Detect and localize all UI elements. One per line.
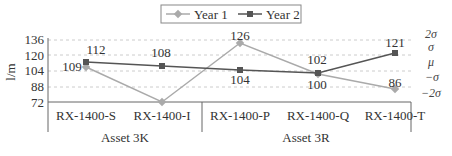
svg-text:112: 112 — [86, 42, 105, 57]
legend-year1: Year 1 — [194, 7, 228, 22]
svg-text:σ: σ — [428, 40, 435, 54]
year2-legend-marker-icon — [247, 11, 253, 17]
category-labels: RX-1400-S RX-1400-I RX-1400-P RX-1400-Q … — [56, 108, 425, 123]
svg-text:126: 126 — [230, 28, 250, 43]
svg-text:RX-1400-S: RX-1400-S — [56, 108, 116, 123]
svg-text:RX-1400-Q: RX-1400-Q — [287, 108, 350, 123]
svg-text:72: 72 — [31, 95, 44, 110]
svg-text:104: 104 — [230, 72, 250, 87]
svg-text:120: 120 — [25, 48, 45, 63]
svg-text:100: 100 — [307, 77, 327, 92]
legend: Year 1 Year 2 — [161, 5, 301, 23]
group-labels: Asset 3K Asset 3R — [101, 130, 330, 145]
sigma-labels: 2σ σ μ −σ −2σ — [421, 27, 442, 100]
svg-text:136: 136 — [25, 32, 45, 47]
svg-text:108: 108 — [151, 45, 171, 60]
legend-year2: Year 2 — [266, 7, 300, 22]
svg-text:109: 109 — [62, 59, 82, 74]
svg-text:−2σ: −2σ — [421, 86, 442, 100]
svg-text:104: 104 — [25, 63, 45, 78]
svg-text:Asset 3K: Asset 3K — [101, 130, 150, 145]
line-chart: Year 1 Year 2 136 120 104 88 72 l/m 2σ σ… — [0, 0, 452, 156]
svg-text:μ: μ — [427, 55, 434, 69]
y-axis-label: l/m — [3, 63, 18, 80]
data-labels: 112 109 108 126 104 102 100 121 86 — [62, 28, 405, 92]
svg-text:RX-1400-P: RX-1400-P — [210, 108, 270, 123]
svg-text:Asset 3R: Asset 3R — [282, 130, 330, 145]
svg-text:2σ: 2σ — [425, 27, 438, 41]
y-tick-labels: 136 120 104 88 72 — [25, 32, 45, 110]
svg-text:RX-1400-I: RX-1400-I — [133, 108, 190, 123]
svg-text:121: 121 — [385, 35, 405, 50]
svg-text:RX-1400-T: RX-1400-T — [365, 108, 426, 123]
svg-text:88: 88 — [31, 79, 44, 94]
svg-text:−σ: −σ — [425, 70, 440, 84]
svg-text:86: 86 — [389, 75, 403, 90]
svg-text:102: 102 — [307, 52, 327, 67]
